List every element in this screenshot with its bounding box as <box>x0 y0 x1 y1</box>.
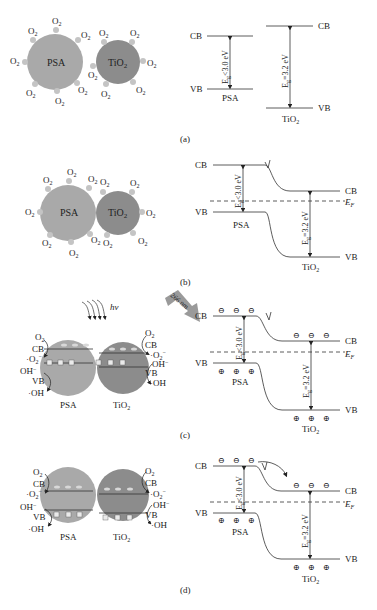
svg-text:·O2−: ·O2− <box>26 353 43 365</box>
svg-text:⊕: ⊕ <box>233 367 240 376</box>
cb-label: CB <box>195 461 207 471</box>
band-diagram-c <box>210 312 345 410</box>
svg-text:⊖: ⊖ <box>233 456 240 465</box>
figure-canvas: O2 O2 O2 O2 O2 O2 O2 O2 O2 O2 O2 O2 O2 P… <box>0 0 377 610</box>
cb-label: CB <box>195 311 207 321</box>
svg-text:O2: O2 <box>88 70 98 81</box>
bandgap-psa: Eg<3.0 eV <box>221 50 231 84</box>
vb-label: VB <box>345 554 358 564</box>
svg-text:⊕: ⊕ <box>323 414 330 423</box>
fermi-level-label: EF <box>344 499 355 510</box>
svg-text:O2: O2 <box>145 328 155 339</box>
svg-text:VB: VB <box>33 512 46 522</box>
vb-label: VB <box>318 103 331 113</box>
tio2-label: TiO2 <box>113 400 130 411</box>
svg-text:O2: O2 <box>35 332 45 343</box>
cb-label: CB <box>195 160 207 170</box>
svg-text:O2: O2 <box>81 30 91 41</box>
vb-label: VB <box>195 508 208 518</box>
svg-text:O2: O2 <box>25 207 35 218</box>
svg-text:⊕: ⊕ <box>218 516 225 525</box>
fermi-level-label: EF <box>344 197 355 208</box>
svg-text:O2: O2 <box>26 88 36 99</box>
svg-text:O2: O2 <box>99 28 109 39</box>
svg-text:O2: O2 <box>130 28 140 39</box>
cb-label: CB <box>318 21 330 31</box>
psa-label: PSA <box>222 93 239 103</box>
svg-text:O2: O2 <box>78 85 88 96</box>
bandgap-psa: Eg<3.0 eV <box>235 326 245 360</box>
psa-label: PSA <box>232 377 249 387</box>
vb-label: VB <box>195 358 208 368</box>
panel-caption-d: (d) <box>180 585 191 595</box>
tio2-label: TiO2 <box>113 532 130 543</box>
vb-label: VB <box>345 405 358 415</box>
cb-label: CB <box>345 336 357 346</box>
svg-text:⊕: ⊕ <box>323 563 330 572</box>
svg-text:⊕: ⊕ <box>218 367 225 376</box>
band-diagram-d <box>210 462 345 559</box>
bandgap-tio2: Eg=3.2 eV <box>301 211 311 245</box>
svg-text:CB: CB <box>145 340 157 350</box>
bandgap-psa: Eg<3.0 eV <box>235 476 245 510</box>
svg-text:⊖: ⊖ <box>308 481 315 490</box>
svg-text:VB: VB <box>145 368 158 378</box>
svg-text:O2: O2 <box>33 467 43 478</box>
panel-caption-a: (a) <box>180 134 190 144</box>
fermi-level-label: EF <box>344 349 355 360</box>
svg-text:O2: O2 <box>10 56 20 67</box>
hv-label: hν <box>110 302 119 312</box>
svg-text:⊖: ⊖ <box>218 306 225 315</box>
svg-text:⊖: ⊖ <box>308 331 315 340</box>
carriers-d: ⊖⊖⊖ ⊖⊖⊖ ⊕⊕⊕ ⊕⊕⊕ <box>218 456 330 572</box>
cb-label: CB <box>345 186 357 196</box>
psa-label: PSA <box>233 220 250 230</box>
svg-text:⊖: ⊖ <box>233 306 240 315</box>
svg-text:⊖: ⊖ <box>248 306 255 315</box>
bandgap-psa: Eg<3.0 eV <box>234 174 244 208</box>
svg-text:⊖: ⊖ <box>248 456 255 465</box>
psa-label: PSA <box>60 207 79 218</box>
tio2-label: TiO2 <box>302 574 319 585</box>
svg-text:OH−: OH− <box>20 502 37 512</box>
psa-label: PSA <box>60 532 77 542</box>
svg-text:O2: O2 <box>103 238 113 249</box>
svg-text:⊕: ⊕ <box>308 414 315 423</box>
panel-b: O2 O2 O2 O2 O2 O2 O2 O2 O2 O2 O2 O2 PSA … <box>25 160 358 287</box>
svg-text:CB: CB <box>145 478 157 488</box>
panel-a: O2 O2 O2 O2 O2 O2 O2 O2 O2 O2 O2 O2 O2 P… <box>10 16 331 144</box>
svg-text:⊕: ⊕ <box>248 516 255 525</box>
svg-text:·OH: ·OH <box>150 378 166 388</box>
svg-text:⊕: ⊕ <box>233 516 240 525</box>
svg-text:⊕: ⊕ <box>308 563 315 572</box>
svg-text:⊖: ⊖ <box>293 331 300 340</box>
svg-text:O2: O2 <box>136 85 146 96</box>
bandgap-tio2: Eg=3.2 eV <box>302 364 312 398</box>
vb-label: VB <box>195 207 208 217</box>
svg-text:⊖: ⊖ <box>218 456 225 465</box>
svg-text:⊖: ⊖ <box>323 481 330 490</box>
panel-caption-b: (b) <box>180 277 191 287</box>
svg-text:O2: O2 <box>130 178 140 189</box>
tio2-label: TiO2 <box>302 262 319 273</box>
psa-label: PSA <box>47 57 66 68</box>
svg-text:O2: O2 <box>55 96 65 107</box>
psa-particle <box>40 340 96 396</box>
svg-text:OH−: OH− <box>20 366 37 376</box>
svg-text:·OH: ·OH <box>151 520 167 530</box>
panel-c: hν 266 nm O2 CB ·O2− OH− VB ·OH O2 <box>20 290 358 440</box>
panel-caption-c: (c) <box>180 430 190 440</box>
svg-text:OH−: OH− <box>153 500 170 510</box>
svg-text:·OH: ·OH <box>28 524 44 534</box>
carriers-c: ⊖⊖⊖ ⊖⊖⊖ ⊕⊕⊕ ⊕⊕⊕ <box>218 306 330 423</box>
svg-text:⊕: ⊕ <box>248 367 255 376</box>
svg-text:O2: O2 <box>43 175 53 186</box>
bandgap-tio2: Eg=3.2 eV <box>281 54 291 88</box>
svg-text:O2: O2 <box>67 167 77 178</box>
svg-text:⊕: ⊕ <box>293 563 300 572</box>
svg-text:O2: O2 <box>100 177 110 188</box>
svg-text:VB: VB <box>145 510 158 520</box>
svg-text:O2: O2 <box>101 89 111 100</box>
cb-label: CB <box>345 486 357 496</box>
band-diagram-b <box>210 160 345 257</box>
